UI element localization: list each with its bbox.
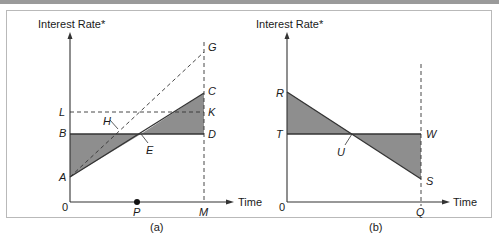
- leader-h: [110, 120, 118, 129]
- origin-a: 0: [62, 201, 68, 213]
- label-r: R: [276, 87, 284, 99]
- label-c: C: [208, 85, 216, 97]
- x-axis-arrow-icon: [226, 200, 234, 205]
- x-axis-label-b: Time: [453, 196, 477, 208]
- label-b: B: [59, 127, 66, 139]
- label-e: E: [146, 144, 154, 156]
- leader-e: [141, 134, 148, 143]
- label-k: K: [208, 106, 216, 118]
- label-l: L: [59, 106, 65, 118]
- y-axis-arrow-icon: [285, 32, 290, 39]
- caption-a: (a): [150, 221, 163, 233]
- panel-b: Interest Rate* Time (b) 0 R T U W S Q: [256, 18, 477, 233]
- y-axis-label-a: Interest Rate*: [38, 18, 106, 30]
- label-s: S: [426, 175, 434, 187]
- interest-rate-diagram: Interest Rate* Time (a) 0 A B L H E G C …: [0, 0, 499, 244]
- x-axis-arrow-icon: [442, 200, 450, 205]
- leader-u: [345, 134, 352, 145]
- label-a: A: [58, 171, 66, 183]
- y-axis-arrow-icon: [68, 32, 73, 39]
- y-axis-label-b: Interest Rate*: [256, 18, 324, 30]
- label-u: U: [337, 146, 345, 158]
- origin-b: 0: [279, 201, 285, 213]
- label-g: G: [208, 41, 217, 53]
- point-p-dot: [134, 199, 140, 205]
- label-w: W: [426, 128, 438, 140]
- label-p: P: [133, 206, 141, 218]
- panel-a: Interest Rate* Time (a) 0 A B L H E G C …: [38, 18, 262, 233]
- x-axis-label-a: Time: [238, 196, 262, 208]
- label-m: M: [199, 206, 209, 218]
- label-h: H: [103, 115, 111, 127]
- label-d: D: [208, 128, 216, 140]
- label-t: T: [276, 128, 284, 140]
- caption-b: (b): [369, 221, 382, 233]
- label-q: Q: [416, 206, 425, 218]
